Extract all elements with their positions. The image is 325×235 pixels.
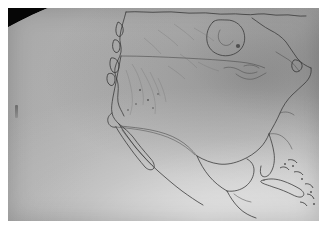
image-viewer: [0, 0, 325, 235]
satellite-photograph: [8, 8, 319, 221]
coastline-overlay: [8, 8, 319, 221]
sensor-artifact: [15, 105, 18, 118]
